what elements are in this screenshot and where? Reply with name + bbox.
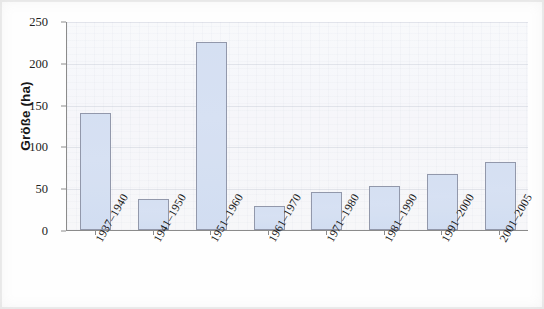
x-axis-tick-label: 1941–1950 [151,192,188,244]
x-axis-tick-label: 1981–1990 [382,192,419,244]
x-axis-tick-label: 1937–1940 [93,192,130,244]
x-axis-tick-label: 1951–1960 [208,192,245,244]
bar-chart-figure: Größe (ha) 050100150200250 1937–19401941… [0,0,544,309]
x-axis-tick-label: 2001–2005 [497,192,534,244]
x-axis-tick-label: 1961–1970 [266,192,303,244]
x-axis-tick-labels: 1937–19401941–19501951–19601961–19701971… [0,0,544,309]
x-axis-tick-label: 1991–2000 [439,192,476,244]
x-axis-tick-label: 1971–1980 [324,192,361,244]
